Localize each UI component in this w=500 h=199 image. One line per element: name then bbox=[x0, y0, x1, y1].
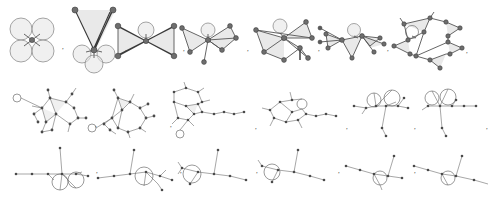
graph-4 bbox=[178, 12, 242, 68]
graph-17 bbox=[258, 148, 338, 196]
graph-14 bbox=[14, 146, 98, 196]
graph-8 bbox=[12, 84, 96, 136]
separator-7: , bbox=[466, 48, 468, 55]
separator-11: , bbox=[346, 124, 348, 131]
row-top: , , bbox=[0, 0, 500, 78]
graph-10 bbox=[164, 82, 256, 138]
row-middle: , , bbox=[0, 80, 500, 140]
separator-1: , bbox=[62, 44, 64, 51]
graph-3 bbox=[114, 18, 178, 62]
graph-15 bbox=[96, 146, 180, 196]
figure-canvas: , , bbox=[0, 0, 500, 199]
graph-7 bbox=[390, 6, 470, 72]
separator-17: , bbox=[338, 168, 340, 175]
separator-4: , bbox=[247, 46, 249, 53]
graph-11 bbox=[258, 88, 346, 136]
graph-19 bbox=[412, 148, 496, 194]
graph-12 bbox=[352, 84, 422, 138]
graph-9 bbox=[88, 84, 172, 138]
row-bottom: , , bbox=[0, 142, 500, 199]
graph-5 bbox=[250, 8, 318, 70]
graph-6 bbox=[318, 14, 388, 66]
separator-10: , bbox=[255, 124, 257, 131]
separator-13: , bbox=[486, 124, 488, 131]
graph-1 bbox=[4, 12, 60, 68]
graph-16 bbox=[176, 146, 258, 196]
graph-13 bbox=[414, 84, 490, 138]
separator-6: , bbox=[387, 46, 389, 53]
graph-18 bbox=[344, 148, 420, 194]
